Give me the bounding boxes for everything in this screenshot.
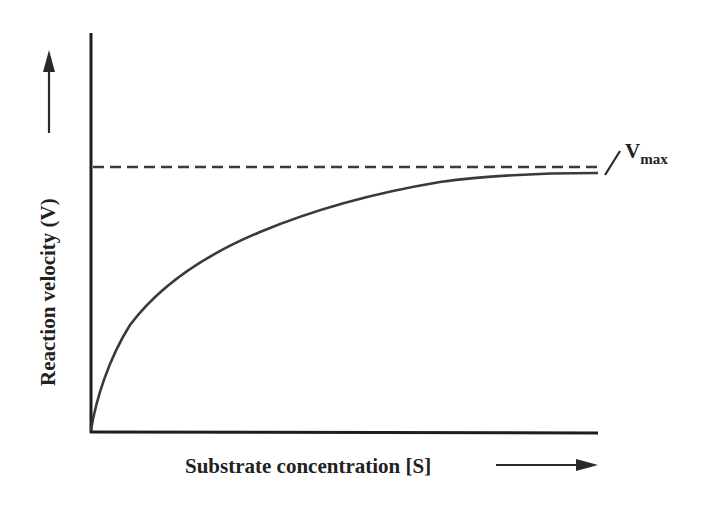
- vmax-pointer-tick: [605, 151, 620, 175]
- vmax-label-subscript: max: [640, 151, 668, 167]
- up-arrow-icon: [43, 50, 55, 72]
- vmax-label-main: V: [625, 139, 640, 163]
- y-axis-label: Reaction velocity (V): [36, 198, 60, 386]
- x-axis-label: Substrate concentration [S]: [185, 454, 431, 478]
- x-axis: [90, 432, 598, 433]
- vmax-label: Vmax: [625, 139, 668, 167]
- saturation-curve: [91, 173, 598, 430]
- michaelis-menten-chart: Reaction velocity (V) Substrate concentr…: [0, 0, 717, 510]
- right-arrow-icon: [576, 459, 598, 471]
